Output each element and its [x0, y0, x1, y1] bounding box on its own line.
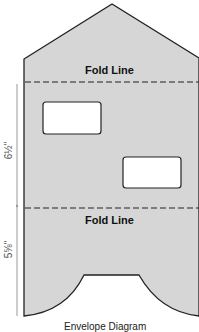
fold-line-label-bottom: Fold Line — [85, 214, 134, 226]
dimension-label-lower: 5⅝" — [3, 241, 14, 258]
diagram-caption: Envelope Diagram — [64, 321, 146, 332]
dimension-label-upper: 6½" — [3, 142, 14, 159]
dimension-tick — [16, 205, 18, 207]
fold-line-label-top: Fold Line — [85, 64, 134, 76]
window-right — [123, 157, 181, 188]
window-left — [43, 102, 101, 134]
